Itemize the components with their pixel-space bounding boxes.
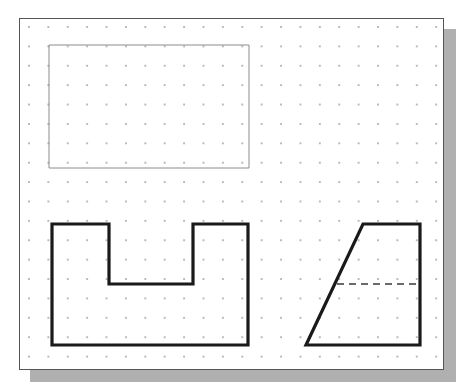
drawing-sheet: [19, 18, 444, 370]
drawing-layer: [20, 19, 444, 370]
drawing-screenshot: [0, 0, 474, 391]
plain-rectangle: [49, 45, 249, 168]
u-channel-profile: [52, 224, 248, 345]
